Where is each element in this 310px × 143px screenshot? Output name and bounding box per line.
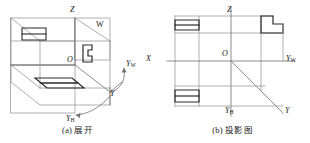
w-plane-frame (75, 18, 110, 60)
panel-projection-drawing: Z O X YW YH Y (b) 投影图 (155, 0, 310, 143)
iso-diagonal-1 (11, 18, 40, 41)
rotation-arrow-head-w (122, 68, 127, 72)
label-y-h-axis-a: YH (66, 115, 75, 123)
rotation-arc-h (76, 96, 110, 115)
h-plane-iso-outline (11, 65, 110, 105)
label-y-w-axis-a: YW (126, 60, 136, 68)
label-y-w-axis-a-sub: W (130, 62, 135, 68)
label-y-h-axis-b-sub: H (229, 109, 233, 115)
unfolded-view-drawing (0, 0, 155, 143)
caption-panel-b: (b) 投影图 (155, 123, 310, 135)
label-z-axis-a: Z (70, 6, 74, 14)
rotation-arrow-head-h (76, 113, 81, 118)
label-origin-a: O (67, 56, 73, 64)
v-plane-frame (11, 18, 75, 65)
w-view-stepped-outline (261, 16, 283, 33)
label-y-w-axis-b-sub: W (290, 57, 295, 63)
w-projection-bracket (83, 45, 92, 62)
panel-unfolded-view: Z W O YW Y YH (a) 展开 (0, 0, 155, 143)
label-y-h-axis-b: YH (225, 107, 234, 115)
iso-left-edge (11, 65, 40, 88)
label-y-axis-b: Y (285, 107, 289, 115)
forty-five-degree-line (231, 61, 283, 113)
caption-panel-a: (a) 展开 (0, 123, 155, 135)
iso-diagonal-2 (75, 18, 110, 41)
projection-drawing (155, 0, 310, 143)
label-x-axis-b: X (146, 55, 151, 63)
label-y-axis-a: Y (110, 90, 114, 98)
h-projection-slab-upper (35, 78, 78, 83)
label-z-axis-b: Z (227, 6, 231, 14)
label-origin-b: O (222, 50, 228, 58)
label-w-plane-a: W (96, 21, 104, 29)
label-y-w-axis-b: YW (286, 55, 296, 63)
projection-figure: Z W O YW Y YH (a) 展开 (0, 0, 310, 143)
h-projection-slab-lower (41, 83, 84, 88)
